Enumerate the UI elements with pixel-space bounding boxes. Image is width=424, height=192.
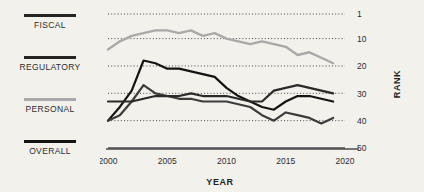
chart-x-tick-labels: 20002005201020152020 — [100, 156, 355, 166]
legend-item-overall[interactable]: OVERALL — [0, 140, 100, 172]
legend-label-personal: PERSONAL — [0, 104, 100, 114]
legend-swatch-fiscal — [24, 14, 76, 17]
x-tick-label: 2010 — [217, 156, 236, 166]
legend-swatch-regulatory — [24, 56, 76, 59]
legend-swatch-personal — [24, 98, 76, 101]
legend-label-fiscal: FISCAL — [0, 20, 100, 30]
series-line-fiscal — [108, 85, 333, 123]
y-tick-label: 40 — [357, 116, 367, 126]
legend-swatch-overall — [24, 140, 76, 143]
y-axis-title: RANK — [392, 70, 402, 98]
x-tick-label: 2000 — [100, 156, 118, 166]
x-tick-label: 2015 — [276, 156, 295, 166]
chart-plot-area: 11020304050 20002005201020152020 YEAR RA… — [100, 0, 424, 192]
chart-series-layer — [108, 30, 333, 123]
legend-item-personal[interactable]: PERSONAL — [0, 98, 100, 130]
x-tick-label: 2005 — [158, 156, 177, 166]
y-tick-label: 10 — [357, 34, 367, 44]
legend-label-regulatory: REGULATORY — [0, 62, 100, 72]
y-tick-label: 1 — [357, 9, 362, 19]
series-line-personal — [108, 30, 333, 63]
chart-svg: 11020304050 20002005201020152020 YEAR RA… — [100, 0, 424, 192]
y-tick-label: 20 — [357, 61, 367, 71]
legend-item-fiscal[interactable]: FISCAL — [0, 14, 100, 46]
series-line-regulatory — [108, 60, 333, 120]
x-axis-title: YEAR — [206, 177, 233, 187]
chart-legend: FISCAL REGULATORY PERSONAL OVERALL — [0, 14, 100, 174]
y-tick-label: 50 — [357, 143, 367, 153]
chart-y-tick-labels: 11020304050 — [357, 9, 367, 153]
x-tick-label: 2020 — [336, 156, 355, 166]
legend-item-regulatory[interactable]: REGULATORY — [0, 56, 100, 88]
chart-root: FISCAL REGULATORY PERSONAL OVERALL 11020… — [0, 0, 424, 192]
y-tick-label: 30 — [357, 89, 367, 99]
legend-label-overall: OVERALL — [0, 146, 100, 156]
